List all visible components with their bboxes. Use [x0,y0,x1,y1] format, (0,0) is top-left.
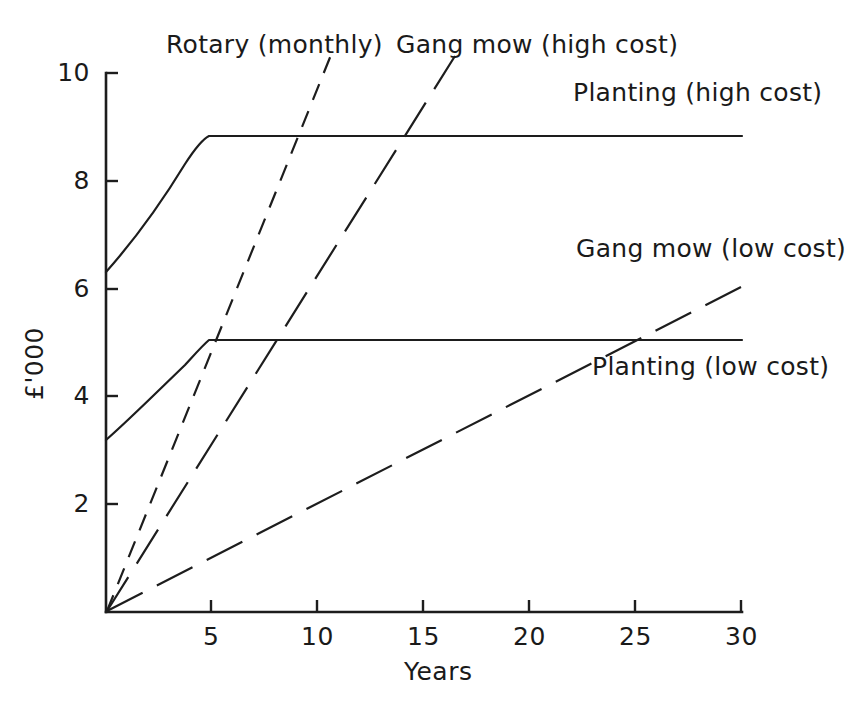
y-axis-title: £'000 [20,327,49,400]
x-tick-label-30: 30 [725,622,758,651]
x-tick-label-15: 15 [407,622,440,651]
chart-figure: 10 8 6 4 2 5 10 15 20 25 30 £'000 Years … [0,0,849,707]
series-label-gang-mow-high-cost: Gang mow (high cost) [396,30,678,59]
series-rotary-monthly [107,50,333,611]
y-tick-label-6: 6 [52,274,90,303]
series-label-gang-mow-low-cost: Gang mow (low cost) [576,234,846,263]
series-label-planting-low-cost: Planting (low cost) [592,352,829,381]
x-axis-title: Years [404,657,472,686]
x-tick-label-5: 5 [203,622,219,651]
series-label-planting-high-cost: Planting (high cost) [573,78,822,107]
x-tick-label-10: 10 [301,622,334,651]
y-tick-label-2: 2 [52,489,90,518]
x-tick-label-25: 25 [619,622,652,651]
x-tick-label-20: 20 [513,622,546,651]
x-axis-ticks [211,600,741,612]
series-gang-mow-low-cost [107,287,741,611]
y-tick-label-10: 10 [52,58,90,87]
y-tick-label-4: 4 [52,381,90,410]
y-tick-label-8: 8 [52,166,90,195]
series-gang-mow-high-cost [107,56,455,611]
series-label-rotary-monthly: Rotary (monthly) [166,30,383,59]
